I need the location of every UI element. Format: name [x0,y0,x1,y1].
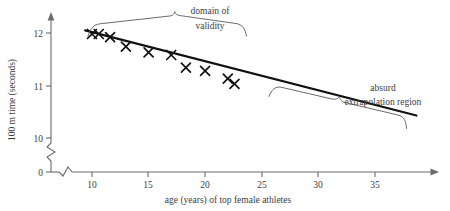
y-tick-label-0: 0 [38,168,43,178]
data-point-marker [121,42,130,51]
data-point-marker [223,74,232,83]
x-axis-group: 10 15 20 25 30 35 age (years) of top fem… [51,167,439,206]
scatter-plot-canvas: 12 11 10 0 100 m time (seconds) [0,0,450,211]
x-tick-label-15: 15 [143,180,153,190]
domain-of-validity-label-line1: domain of [191,6,231,16]
y-axis-break-symbol [47,143,55,161]
x-axis-break-symbol [59,167,72,176]
x-tick-label-30: 30 [313,180,323,190]
data-point-marker [201,66,210,75]
x-tick-label-10: 10 [87,180,97,190]
x-axis-arrowhead [431,169,440,176]
absurd-extrapolation-label-line1: absurd [370,83,396,93]
y-tick-label-12: 12 [34,29,44,39]
y-tick-label-10: 10 [34,134,44,144]
x-axis-title: age (years) of top female athletes [165,195,292,206]
y-tick-label-11: 11 [34,82,43,92]
domain-of-validity-label-line2: validity [195,21,224,31]
data-point-marker [144,48,153,57]
y-axis-arrowhead [48,12,55,21]
x-tick-label-35: 35 [370,180,380,190]
data-point-marker [230,79,239,88]
data-point-marker [181,63,190,72]
absurd-extrapolation-annotation: absurd extrapolation region [269,83,422,128]
domain-of-validity-annotation: domain of validity [88,6,247,37]
absurd-extrapolation-label-line2: extrapolation region [345,97,422,107]
x-tick-label-20: 20 [200,180,210,190]
x-tick-label-25: 25 [257,180,267,190]
data-points-group [88,30,240,89]
chart-figure: 12 11 10 0 100 m time (seconds) [0,0,450,211]
y-axis-title: 100 m time (seconds) [7,59,18,141]
y-axis-group: 12 11 10 0 100 m time (seconds) [7,12,55,178]
